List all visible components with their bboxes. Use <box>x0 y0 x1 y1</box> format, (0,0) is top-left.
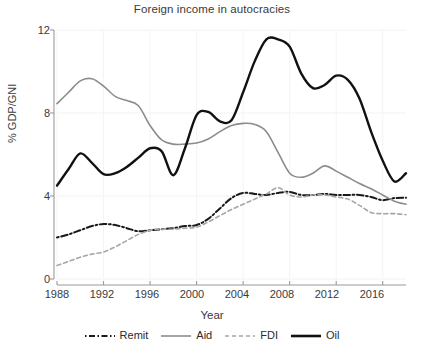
legend-item-fdi: FDI <box>225 330 278 341</box>
legend-label-aid: Aid <box>196 330 212 341</box>
dash-dot-line-swatch <box>85 331 115 341</box>
legend-item-oil: Oil <box>291 330 339 341</box>
legend-item-remit: Remit <box>85 330 149 341</box>
series-line-remit <box>57 192 406 238</box>
dashed-line-swatch <box>225 331 255 341</box>
gridlines <box>57 30 406 279</box>
legend-label-fdi: FDI <box>260 330 278 341</box>
thick-solid-line-swatch <box>291 331 321 341</box>
legend-label-oil: Oil <box>326 330 339 341</box>
series-line-fdi <box>57 188 406 266</box>
chart-figure: Foreign income in autocracies % GDP/GNI … <box>0 0 424 358</box>
series-line-aid <box>57 78 406 204</box>
legend-label-remit: Remit <box>120 330 149 341</box>
plot-area <box>0 0 424 358</box>
series-line-oil <box>57 37 406 185</box>
series-lines <box>57 37 406 265</box>
solid-line-swatch <box>161 331 191 341</box>
chart-legend: Remit Aid FDI Oil <box>0 330 424 341</box>
legend-item-aid: Aid <box>161 330 212 341</box>
